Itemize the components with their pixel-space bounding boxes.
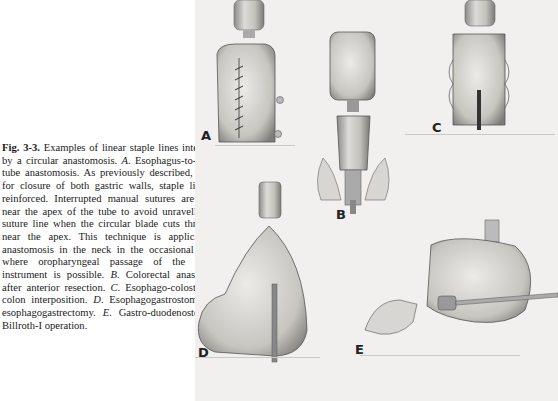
panel-b-drawing: [317, 32, 389, 214]
panel-d-drawing: [198, 182, 307, 362]
panel-c-drawing: [449, 0, 509, 130]
panel-label-c: C: [432, 120, 442, 135]
panel-e-drawing: [365, 220, 558, 334]
surgical-illustration: [195, 0, 558, 401]
caption-panel-ref-d: D: [93, 294, 101, 305]
caption-panel-ref-c: C: [110, 282, 117, 293]
panel-label-e: E: [355, 342, 364, 357]
illustration-plate: A B C D E: [195, 0, 558, 401]
panel-a-drawing: [217, 0, 284, 142]
figure-label: Fig. 3-3.: [2, 142, 40, 153]
panel-label-a: A: [201, 128, 211, 143]
panel-label-d: D: [198, 345, 209, 360]
panel-label-b: B: [336, 207, 346, 222]
